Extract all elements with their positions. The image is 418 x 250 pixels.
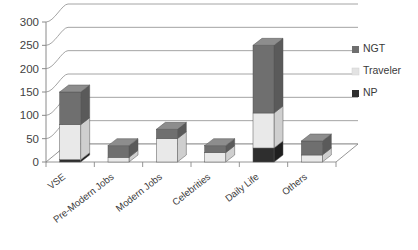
segment-daily-life-traveler-front bbox=[253, 113, 274, 148]
segment-vse-ngt-front bbox=[60, 92, 81, 125]
category-label-modern-jobs: Modern Jobs bbox=[114, 171, 165, 214]
segment-daily-life-traveler-side bbox=[274, 106, 283, 148]
bar-group-modern-jobs bbox=[156, 122, 186, 162]
segment-modern-jobs-ngt-front bbox=[156, 129, 177, 138]
y-tick-label-200: 200 bbox=[20, 63, 39, 75]
segment-pre-modern-jobs-ngt-front bbox=[108, 146, 129, 158]
legend-swatch-np bbox=[352, 90, 359, 97]
category-label-others: Others bbox=[280, 171, 310, 198]
y-tick-label-250: 250 bbox=[20, 39, 39, 51]
gridline-150 bbox=[46, 74, 358, 92]
segment-vse-traveler-front bbox=[60, 125, 81, 160]
category-label-vse: VSE bbox=[45, 171, 67, 191]
category-axis-ticks bbox=[46, 162, 336, 167]
segment-celebrities-ngt-front bbox=[205, 146, 226, 153]
bar-group-daily-life bbox=[253, 38, 283, 162]
category-label-daily-life: Daily Life bbox=[223, 171, 261, 204]
chart-canvas: 050100150200250300VSEPre-Modern JobsMode… bbox=[0, 0, 418, 250]
y-axis-ticks: 050100150200250300 bbox=[20, 16, 46, 168]
segment-vse-np-front bbox=[60, 160, 81, 162]
category-labels: VSEPre-Modern JobsModern JobsCelebrities… bbox=[45, 171, 309, 225]
legend-label-ngt: NGT bbox=[363, 42, 386, 54]
segment-daily-life-ngt-side bbox=[274, 38, 283, 113]
segment-modern-jobs-traveler-front bbox=[156, 139, 177, 162]
bar-group-celebrities bbox=[205, 139, 235, 162]
y-tick-label-300: 300 bbox=[20, 16, 39, 28]
bars bbox=[60, 38, 332, 162]
segment-others-traveler-front bbox=[301, 155, 322, 162]
legend-label-np: NP bbox=[363, 86, 378, 98]
legend-swatch-traveler bbox=[352, 68, 359, 75]
y-tick-label-100: 100 bbox=[20, 109, 39, 121]
segment-daily-life-np-front bbox=[253, 148, 274, 162]
segment-celebrities-traveler-front bbox=[205, 153, 226, 162]
legend: NGTTravelerNP bbox=[352, 42, 402, 98]
bar-group-vse bbox=[60, 85, 90, 162]
legend-swatch-ngt bbox=[352, 46, 359, 53]
legend-label-traveler: Traveler bbox=[363, 64, 402, 76]
gridline-200 bbox=[46, 51, 358, 69]
gridline-250 bbox=[46, 27, 358, 45]
segment-pre-modern-jobs-traveler-front bbox=[108, 157, 129, 162]
gridline-300 bbox=[46, 4, 358, 22]
y-tick-label-0: 0 bbox=[33, 156, 39, 168]
segment-daily-life-ngt-front bbox=[253, 45, 274, 113]
category-label-celebrities: Celebrities bbox=[170, 171, 213, 208]
y-tick-label-150: 150 bbox=[20, 86, 39, 98]
gridline-100 bbox=[46, 97, 358, 115]
segment-others-ngt-front bbox=[301, 141, 322, 155]
bar-group-pre-modern-jobs bbox=[108, 139, 138, 162]
bar-group-others bbox=[301, 134, 331, 162]
y-tick-label-50: 50 bbox=[26, 133, 39, 145]
segment-vse-traveler-side bbox=[81, 118, 90, 160]
stacked-column-chart: 050100150200250300VSEPre-Modern JobsMode… bbox=[0, 0, 418, 250]
